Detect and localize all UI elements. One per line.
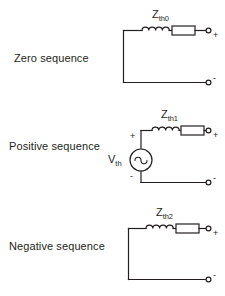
zero-sequence-label: Zero sequence [14, 52, 89, 64]
positive-impedance-label: Zth1 [161, 108, 178, 123]
positive-source-label: Vth [108, 153, 122, 168]
positive-sequence-circuit [130, 126, 211, 185]
negative-resistor-icon [176, 224, 199, 233]
negative-impedance-symbol: Z [156, 206, 163, 218]
negative-sequence-label: Negative sequence [9, 240, 105, 252]
positive-source-subscript: th [115, 159, 121, 168]
positive-resistor-icon [181, 126, 204, 135]
positive-source-negative-sign: - [130, 172, 133, 181]
positive-source-positive-sign: + [130, 132, 135, 141]
zero-inductor-icon [142, 27, 169, 30]
zero-positive-terminal [206, 28, 211, 33]
zero-sequence-circuit [124, 26, 211, 85]
negative-impedance-label: Zth2 [156, 206, 173, 221]
negative-negative-sign: - [213, 271, 216, 280]
zero-impedance-symbol: Z [152, 8, 159, 20]
negative-inductor-icon [146, 225, 173, 228]
zero-impedance-subscript: th0 [159, 14, 169, 23]
positive-inductor-icon [152, 127, 179, 130]
positive-positive-terminal [206, 128, 211, 133]
sequence-networks-diagram: Zero sequence Zth0 + - Positive sequence… [0, 0, 225, 296]
negative-sequence-circuit [129, 224, 211, 282]
positive-impedance-subscript: th1 [168, 114, 178, 123]
zero-negative-sign: - [213, 74, 216, 83]
zero-resistor-icon [172, 26, 195, 35]
negative-negative-terminal [206, 277, 211, 282]
zero-negative-terminal [206, 80, 211, 85]
zero-impedance-label: Zth0 [152, 8, 169, 23]
zero-positive-sign: + [213, 31, 218, 40]
positive-impedance-symbol: Z [161, 108, 168, 120]
positive-sequence-label: Positive sequence [9, 140, 100, 152]
positive-negative-terminal [206, 180, 211, 185]
negative-positive-terminal [206, 226, 211, 231]
negative-positive-sign: + [213, 229, 218, 238]
negative-impedance-subscript: th2 [163, 212, 173, 221]
positive-positive-sign: + [213, 131, 218, 140]
positive-negative-sign: - [213, 174, 216, 183]
